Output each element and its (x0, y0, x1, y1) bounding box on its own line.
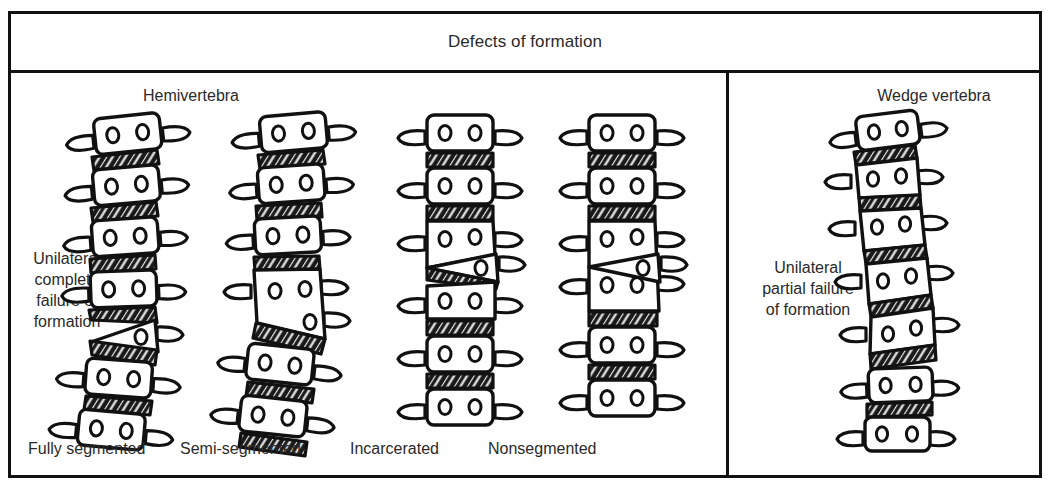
wedge-vertebra-1 (825, 158, 943, 198)
figure-root: Defects of formation Hemivertebra Unilat… (0, 0, 1049, 496)
spine-nonsegmented (559, 111, 699, 441)
spine-semi-segmented (219, 113, 369, 438)
figure-body: Hemivertebra Unilateral complete failure… (11, 73, 1039, 475)
caption-nonsegmented: Nonsegmented (488, 440, 597, 458)
figure-frame: Defects of formation Hemivertebra Unilat… (8, 11, 1042, 478)
spine-incarcerated (399, 111, 539, 441)
spine-fully-segmented (59, 115, 209, 435)
hemivertebra-wedge-fused (224, 269, 350, 339)
wedge-vertebra-2 (829, 208, 947, 251)
panel-wedge-vertebra: Wedge vertebra Unilateral partial failur… (726, 73, 1039, 475)
hemivertebra-nonsegmented-block (560, 221, 687, 311)
spine-wedge-vertebra (821, 113, 981, 448)
caption-semi-segmented: Semi-segmented (180, 440, 301, 458)
figure-title: Defects of formation (448, 32, 602, 52)
caption-fully-segmented: Fully segmented (28, 440, 145, 458)
figure-title-bar: Defects of formation (11, 14, 1039, 73)
panel-wedge-vertebra-heading: Wedge vertebra (729, 87, 1039, 105)
panel-hemivertebra-heading: Hemivertebra (11, 87, 726, 105)
wedge-vertebra-4 (840, 308, 959, 354)
panel-hemivertebra: Hemivertebra Unilateral complete failure… (11, 73, 726, 475)
caption-incarcerated: Incarcerated (350, 440, 439, 458)
wedge-vertebra-3 (835, 258, 953, 304)
